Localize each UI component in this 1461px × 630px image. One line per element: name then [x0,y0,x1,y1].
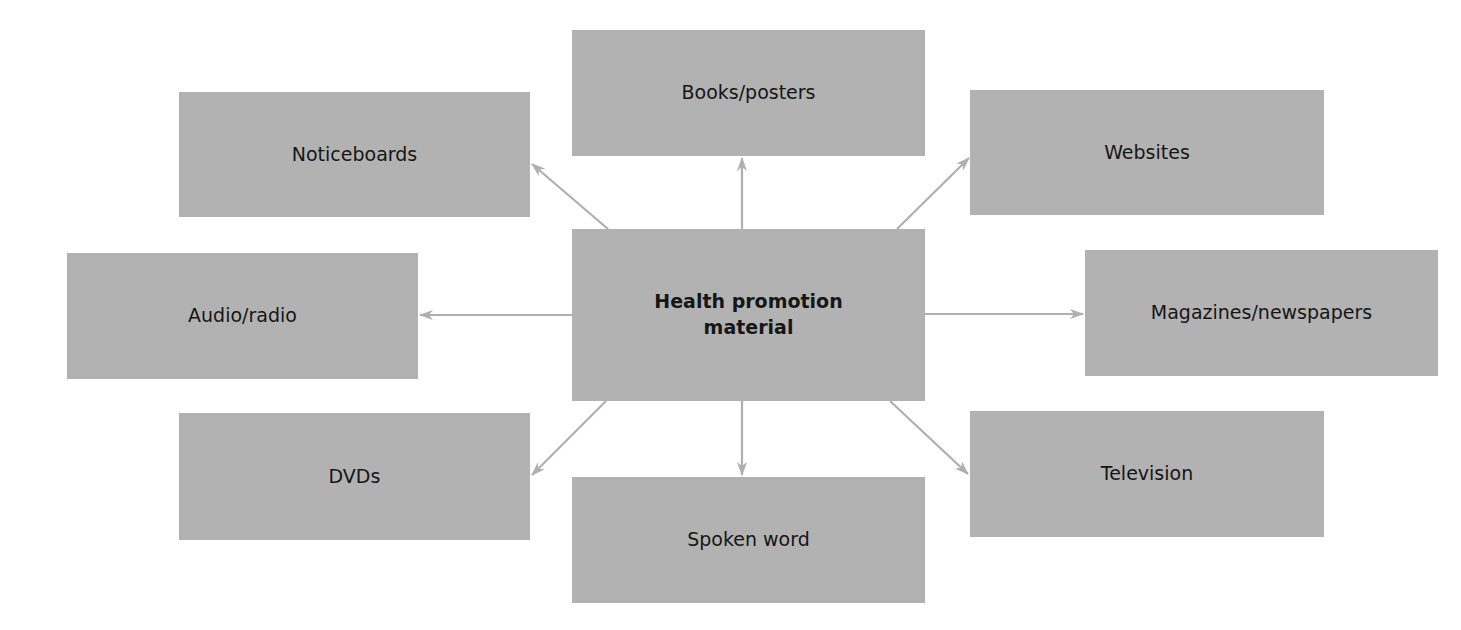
arrow-to-television [890,401,968,474]
node-label: Books/posters [681,80,815,106]
arrow-to-noticeboards [532,164,608,229]
diagram-canvas: Books/posters Noticeboards Websites Audi… [0,0,1461,630]
node-label: DVDs [329,464,381,490]
node-label: Audio/radio [188,303,297,329]
center-label-line-2: material [654,315,842,341]
node-noticeboards: Noticeboards [179,92,530,217]
center-label-line-1: Health promotion [654,289,842,315]
arrow-to-websites [897,158,969,229]
node-magazines-newspapers: Magazines/newspapers [1085,250,1438,376]
node-websites: Websites [970,90,1324,215]
node-label: Television [1101,461,1193,487]
node-label: Websites [1104,140,1190,166]
node-center-health-promotion: Health promotion material [572,229,925,401]
node-label: Spoken word [687,527,810,553]
node-label: Magazines/newspapers [1151,300,1372,326]
node-audio-radio: Audio/radio [67,253,418,379]
node-label: Noticeboards [292,142,417,168]
node-spoken-word: Spoken word [572,477,925,603]
node-books-posters: Books/posters [572,30,925,156]
node-television: Television [970,411,1324,537]
arrow-to-dvds [532,401,606,475]
center-label: Health promotion material [654,289,842,340]
node-dvds: DVDs [179,413,530,540]
